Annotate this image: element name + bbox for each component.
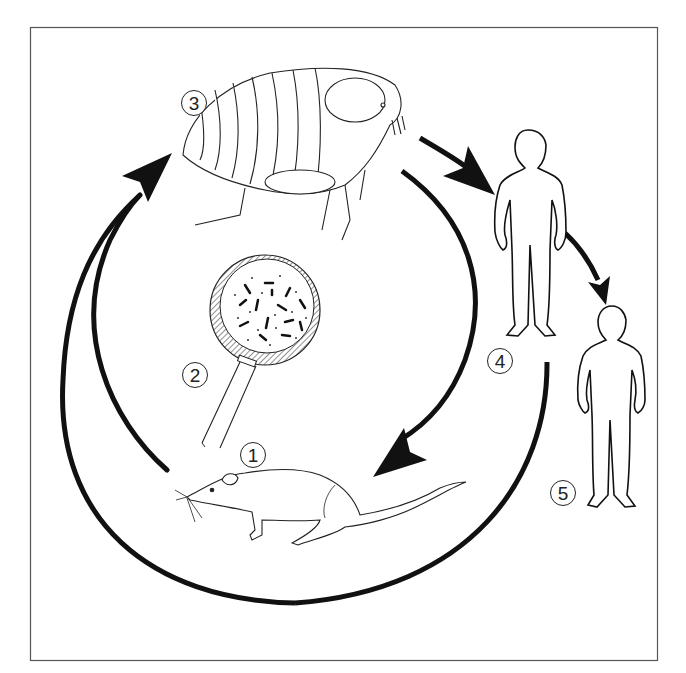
label-5: 5: [550, 480, 576, 506]
label-1: 1: [240, 442, 266, 468]
plague-cycle-diagram: 3 2 1 4 5: [0, 0, 686, 673]
label-4: 4: [487, 348, 513, 374]
label-3: 3: [181, 90, 207, 116]
diagram-canvas: [0, 0, 686, 673]
label-2: 2: [182, 362, 208, 388]
